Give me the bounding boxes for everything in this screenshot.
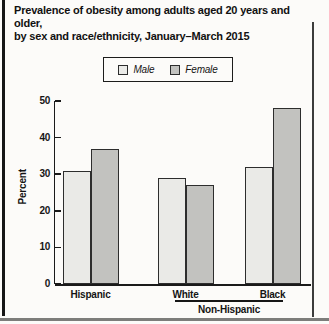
page-border-right xyxy=(312,22,314,317)
y-tick-label: 30 xyxy=(24,168,50,180)
y-tick-label: 50 xyxy=(24,95,50,107)
non-hispanic-underline xyxy=(175,300,283,302)
y-tick xyxy=(55,283,61,285)
legend-item-male: Male xyxy=(118,64,154,75)
page-border-bottom xyxy=(0,318,329,321)
y-tick xyxy=(55,100,61,102)
x-axis-line xyxy=(55,284,311,286)
legend-label-female: Female xyxy=(185,64,217,75)
non-hispanic-label: Non-Hispanic xyxy=(184,304,274,315)
y-tick xyxy=(55,137,61,139)
y-tick xyxy=(55,173,61,175)
bar-female-white xyxy=(186,185,214,284)
legend-item-female: Female xyxy=(170,64,217,75)
page-border-left xyxy=(2,0,5,316)
bar-female-black xyxy=(273,108,301,284)
x-label-black: Black xyxy=(228,289,318,300)
chart-title-line1: Prevalence of obesity among adults aged … xyxy=(14,4,318,30)
bar-group-black xyxy=(245,108,301,284)
male-swatch-icon xyxy=(118,65,128,75)
y-tick xyxy=(55,247,61,249)
x-label-hispanic: Hispanic xyxy=(46,289,136,300)
bar-female-hispanic xyxy=(91,149,119,284)
x-label-white: White xyxy=(141,289,231,300)
y-tick xyxy=(55,210,61,212)
bar-male-hispanic xyxy=(63,171,91,284)
y-tick-label: 40 xyxy=(24,132,50,144)
chart-title-line2: by sex and race/ethnicity, January–March… xyxy=(14,30,318,43)
legend-label-male: Male xyxy=(133,64,154,75)
chart-title: Prevalence of obesity among adults aged … xyxy=(14,4,318,43)
female-swatch-icon xyxy=(170,65,180,75)
bar-male-black xyxy=(245,167,273,284)
y-tick-label: 20 xyxy=(24,205,50,217)
figure: Prevalence of obesity among adults aged … xyxy=(0,0,329,324)
bar-group-hispanic xyxy=(63,149,119,284)
bar-male-white xyxy=(158,178,186,284)
plot-area xyxy=(54,101,311,284)
bar-group-white xyxy=(158,178,214,284)
y-tick-label: 10 xyxy=(24,241,50,253)
legend: Male Female xyxy=(103,57,233,82)
